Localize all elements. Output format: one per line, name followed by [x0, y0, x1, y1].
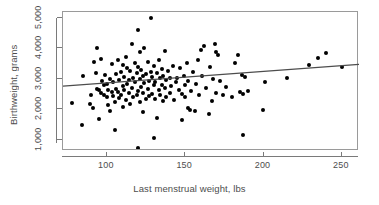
y-axis-tick-label: 3,000 [33, 61, 44, 95]
x-axis-tick-label: 200 [243, 160, 283, 170]
y-axis-line [56, 18, 57, 143]
x-axis-tick-label: 250 [321, 160, 361, 170]
x-axis-title: Last menstrual weight, lbs [0, 183, 379, 194]
y-axis-tick-label: 4,000 [33, 30, 44, 64]
scatter-plot-figure: Birthweight, grams 1,0002,0003,0004,0005… [0, 0, 379, 205]
y-axis-title: Birthweight, grams [8, 30, 22, 140]
x-axis-tick [106, 152, 107, 157]
x-axis-tick-label: 100 [86, 160, 126, 170]
regression-line [63, 64, 359, 86]
x-axis-tick [263, 152, 264, 157]
regression-line-layer [63, 12, 359, 151]
x-axis-tick [184, 152, 185, 157]
x-axis-tick [341, 152, 342, 157]
y-axis-tick-label: 1,000 [33, 122, 44, 156]
y-axis-tick-label: 2,000 [33, 91, 44, 125]
x-axis-tick-label: 150 [164, 160, 204, 170]
plot-area [62, 11, 358, 150]
y-axis-tick-label: 5,000 [33, 0, 44, 34]
